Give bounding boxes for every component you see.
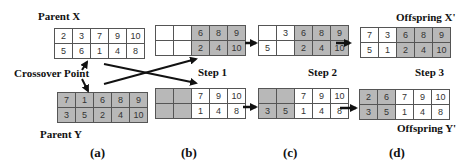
crossover-arrow-down-icon bbox=[82, 79, 88, 91]
arrows-layer bbox=[0, 0, 466, 168]
crossover-arrow-up-icon bbox=[82, 62, 87, 70]
